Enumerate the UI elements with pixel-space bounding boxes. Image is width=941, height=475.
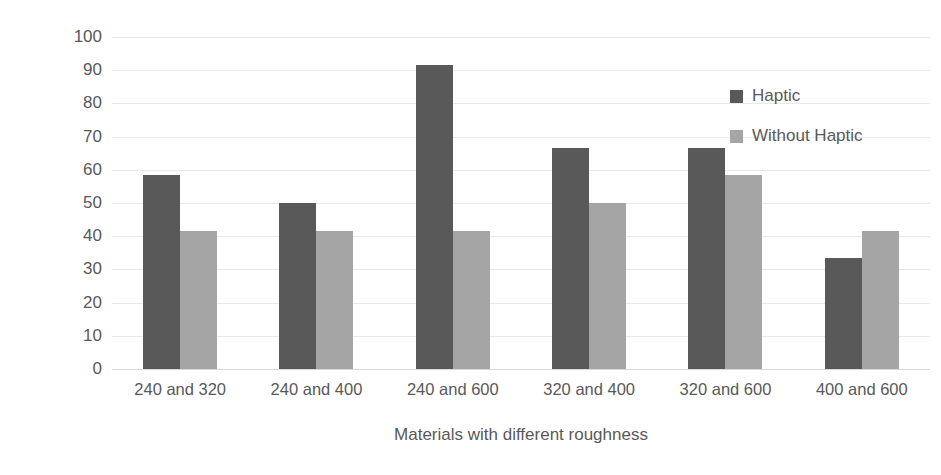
- bar[interactable]: [552, 148, 589, 369]
- legend: Haptic Without Haptic: [730, 76, 863, 156]
- y-axis-tick-label: 10: [44, 326, 102, 346]
- y-axis-tick-label: 30: [44, 259, 102, 279]
- bar-chart: Correct answer rate [%] 100 90 80 70 60 …: [0, 0, 941, 475]
- x-axis-tick-labels: 240 and 320240 and 400240 and 600320 and…: [112, 380, 930, 406]
- y-axis-tick-label: 90: [44, 60, 102, 80]
- y-axis-tick-label: 50: [44, 193, 102, 213]
- gridline: [112, 369, 930, 370]
- bar[interactable]: [825, 258, 862, 369]
- x-axis-tick-label: 240 and 320: [112, 380, 248, 406]
- y-axis-tick-label: 100: [44, 27, 102, 47]
- bar-group: [112, 37, 248, 369]
- legend-item-without-haptic[interactable]: Without Haptic: [730, 116, 863, 156]
- bar[interactable]: [416, 65, 453, 369]
- x-axis-tick-label: 240 and 600: [385, 380, 521, 406]
- x-axis-title: Materials with different roughness: [112, 425, 930, 445]
- bar-group: [248, 37, 384, 369]
- y-axis-tick-label: 80: [44, 93, 102, 113]
- y-axis-tick-labels: 100 90 80 70 60 50 40 30 20 10 0: [44, 0, 102, 475]
- x-axis-tick-label: 240 and 400: [248, 380, 384, 406]
- legend-swatch-icon: [730, 130, 743, 143]
- bar[interactable]: [316, 231, 353, 369]
- y-axis-tick-label: 60: [44, 160, 102, 180]
- y-axis-tick-label: 20: [44, 293, 102, 313]
- y-axis-tick-label: 70: [44, 127, 102, 147]
- bar[interactable]: [862, 231, 899, 369]
- legend-swatch-icon: [730, 90, 743, 103]
- legend-item-label: Haptic: [752, 86, 800, 106]
- bar[interactable]: [589, 203, 626, 369]
- legend-item-haptic[interactable]: Haptic: [730, 76, 863, 116]
- bar-group: [521, 37, 657, 369]
- bar[interactable]: [279, 203, 316, 369]
- bar[interactable]: [725, 175, 762, 369]
- bar[interactable]: [143, 175, 180, 369]
- y-axis-tick-label: 0: [44, 359, 102, 379]
- y-axis-tick-label: 40: [44, 226, 102, 246]
- legend-item-label: Without Haptic: [752, 126, 863, 146]
- bar[interactable]: [453, 231, 490, 369]
- bar[interactable]: [180, 231, 217, 369]
- x-axis-tick-label: 400 and 600: [794, 380, 930, 406]
- bar-group: [385, 37, 521, 369]
- x-axis-tick-label: 320 and 400: [521, 380, 657, 406]
- bar[interactable]: [688, 148, 725, 369]
- x-axis-tick-label: 320 and 600: [657, 380, 793, 406]
